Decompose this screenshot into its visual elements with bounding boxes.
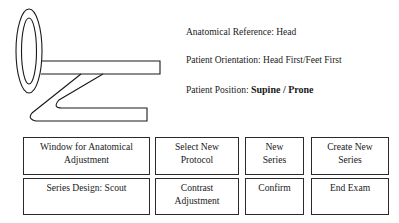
end-exam-button[interactable]: End Exam <box>311 178 389 215</box>
patient-position: Patient Position: Supine / Prone <box>186 84 314 95</box>
button-label-line: Confirm <box>246 182 303 195</box>
patient-orientation: Patient Orientation: Head First/Feet Fir… <box>186 55 342 65</box>
patient-position-label: Patient Position: <box>186 85 251 95</box>
series-design-button[interactable]: Series Design: Scout <box>23 178 150 215</box>
select-new-protocol-button[interactable]: Select New Protocol <box>155 137 239 175</box>
button-label-line: Adjustment <box>24 154 149 167</box>
button-label-line: Contrast <box>156 182 238 195</box>
button-label-line: Series Design: Scout <box>24 182 149 195</box>
create-new-series-button[interactable]: Create New Series <box>311 137 389 175</box>
button-label-line: Protocol <box>156 154 238 167</box>
patient-position-value: Supine / Prone <box>251 84 314 95</box>
button-label-line: Series <box>246 154 303 167</box>
contrast-adjustment-button[interactable]: Contrast Adjustment <box>155 178 239 215</box>
button-label-line: Series <box>312 154 388 167</box>
button-label-line: New <box>246 141 303 154</box>
button-label-line: Adjustment <box>156 195 238 208</box>
window-adjustment-button[interactable]: Window for Anatomical Adjustment <box>23 137 150 175</box>
new-series-button[interactable]: New Series <box>245 137 304 175</box>
button-label-line: Create New <box>312 141 388 154</box>
button-label-line: Select New <box>156 141 238 154</box>
gantry-patient-icon <box>0 0 170 135</box>
button-label-line: Window for Anatomical <box>24 141 149 154</box>
anatomical-reference: Anatomical Reference: Head <box>186 27 296 37</box>
button-label-line: End Exam <box>312 182 388 195</box>
confirm-button[interactable]: Confirm <box>245 178 304 215</box>
